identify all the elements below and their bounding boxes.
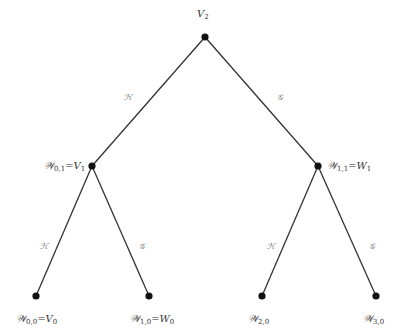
node-label-equiv: =V: [37, 313, 53, 324]
node-w01: [88, 162, 95, 169]
node-w30: [372, 292, 379, 299]
node-label-subscript: 1,1: [337, 165, 348, 173]
node-root: [201, 33, 208, 40]
node-label: 𝒲2,0: [248, 314, 269, 326]
node-label-main: 𝒲: [130, 313, 140, 324]
node-label-equiv-subscript: 1: [81, 165, 85, 173]
edge-w11-w20: [262, 166, 318, 296]
edge-root-w11: [205, 37, 318, 166]
node-label: V2: [197, 9, 209, 21]
node-label-main: 𝒲: [44, 160, 54, 171]
node-w00: [32, 292, 39, 299]
node-label-equiv-subscript: 0: [53, 318, 57, 326]
edge-root-w01: [92, 37, 205, 166]
node-w11: [314, 162, 321, 169]
node-label: 𝒲0,1=V1: [44, 161, 85, 173]
node-label-equiv-subscript: 1: [367, 165, 371, 173]
node-label-equiv: =V: [65, 160, 81, 171]
node-w10: [145, 292, 152, 299]
edge-label: 𝒢: [277, 94, 283, 102]
edge-label: 𝒢: [369, 243, 375, 251]
node-label-subscript: 0,0: [26, 318, 37, 326]
edge-w11-w30: [318, 166, 376, 296]
node-label-main: 𝒲: [327, 160, 337, 171]
node-w20: [258, 292, 265, 299]
node-label-main: 𝒲: [16, 313, 26, 324]
node-label-equiv: =W: [348, 160, 367, 171]
edge-label: ℋ: [124, 94, 132, 102]
edge-w01-w10: [92, 166, 149, 296]
node-label-subscript: 0,1: [54, 165, 65, 173]
node-label: 𝒲0,0=V0: [16, 314, 57, 326]
edge-label: ℋ: [267, 243, 275, 251]
node-label-subscript: 2: [204, 13, 208, 21]
tree-diagram: ℋ𝒢ℋ𝒢ℋ𝒢V2𝒲0,1=V1𝒲1,1=W1𝒲0,0=V0𝒲1,0=W0𝒲2,0…: [0, 0, 412, 336]
node-label-main: 𝒲: [248, 313, 258, 324]
node-label-subscript: 3,0: [373, 318, 384, 326]
node-label-subscript: 2,0: [258, 318, 269, 326]
node-label-equiv-subscript: 0: [170, 318, 174, 326]
edge-w01-w00: [36, 166, 92, 296]
node-label: 𝒲1,0=W0: [130, 314, 174, 326]
edge-label: ℋ: [40, 243, 48, 251]
edge-label: 𝒢: [139, 243, 145, 251]
node-label-equiv: =W: [151, 313, 170, 324]
node-label-subscript: 1,0: [140, 318, 151, 326]
node-label-main: 𝒲: [363, 313, 373, 324]
node-label: 𝒲1,1=W1: [327, 161, 371, 173]
node-label: 𝒲3,0: [363, 314, 384, 326]
